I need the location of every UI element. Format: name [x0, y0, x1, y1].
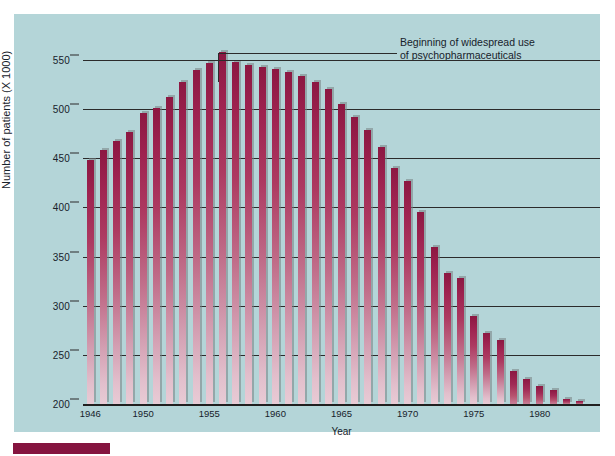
annotation-line-1: Beginning of widespread use	[400, 36, 600, 49]
bar	[113, 141, 120, 404]
bar	[510, 371, 517, 404]
bar	[219, 52, 226, 404]
y-tick-mark	[70, 104, 79, 105]
bar	[417, 212, 424, 404]
y-tick-label: 550	[53, 55, 70, 66]
x-tick-label: 1946	[80, 408, 101, 419]
y-tick-mark	[70, 300, 79, 301]
bar	[523, 379, 530, 404]
x-tick-label: 1965	[331, 408, 352, 419]
bar	[404, 181, 411, 404]
bar	[470, 316, 477, 404]
bar	[312, 82, 319, 404]
bar	[126, 132, 133, 404]
annotation-label: Beginning of widespread use of psychopha…	[400, 36, 600, 61]
bar	[483, 333, 490, 404]
bar	[391, 168, 398, 404]
y-tick-mark	[70, 55, 79, 56]
bar	[431, 247, 438, 404]
y-tick-label: 450	[53, 153, 70, 164]
bar	[444, 273, 451, 404]
y-axis-labels: 200250300350400450500550	[14, 60, 76, 404]
x-tick-label: 1970	[397, 408, 418, 419]
bar	[338, 104, 345, 404]
bar	[245, 65, 252, 404]
bar	[497, 340, 504, 404]
y-axis-title: Number of patients (X 1000)	[0, 0, 12, 189]
bar	[351, 117, 358, 404]
bar	[272, 69, 279, 404]
bar	[298, 76, 305, 404]
x-axis-title: Year	[83, 426, 600, 437]
bar	[153, 108, 160, 404]
y-tick-mark	[70, 153, 79, 154]
annotation-leader-horizontal	[218, 53, 397, 54]
y-tick-label: 350	[53, 251, 70, 262]
annotation-baseline-rule	[83, 60, 600, 61]
y-tick-mark	[70, 349, 79, 350]
bar	[166, 97, 173, 404]
x-tick-label: 1950	[133, 408, 154, 419]
bar	[259, 67, 266, 404]
y-tick-label: 200	[53, 399, 70, 410]
bar	[536, 386, 543, 404]
bar	[550, 390, 557, 404]
bar	[364, 130, 371, 404]
y-tick-label: 500	[53, 104, 70, 115]
y-tick-mark	[70, 202, 79, 203]
bar	[457, 278, 464, 404]
bar	[285, 72, 292, 404]
bar	[206, 63, 213, 404]
color-swatch	[13, 443, 110, 454]
bar	[87, 160, 94, 404]
bar	[325, 89, 332, 404]
y-tick-label: 400	[53, 202, 70, 213]
y-tick-label: 250	[53, 349, 70, 360]
y-tick-mark	[70, 399, 79, 400]
bar	[193, 70, 200, 404]
x-tick-label: 1955	[199, 408, 220, 419]
plot-area	[83, 60, 600, 404]
x-tick-label: 1960	[265, 408, 286, 419]
bar	[140, 113, 147, 404]
bar	[179, 82, 186, 404]
chart-panel: Number of patients (X 1000) 200250300350…	[14, 14, 600, 432]
bar	[100, 150, 107, 404]
x-tick-label: 1975	[463, 408, 484, 419]
x-axis-labels: 19461950195519601965197019751980	[83, 404, 600, 424]
y-tick-label: 300	[53, 300, 70, 311]
bar	[232, 62, 239, 404]
bar	[378, 147, 385, 405]
y-tick-mark	[70, 251, 79, 252]
annotation-leader-vertical	[218, 53, 219, 82]
x-tick-label: 1980	[529, 408, 550, 419]
